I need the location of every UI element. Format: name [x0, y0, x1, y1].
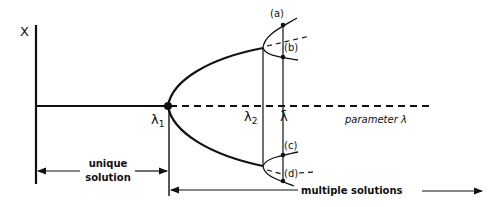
lambda1-label: λ1 — [151, 112, 164, 129]
point-d — [281, 179, 286, 184]
lambda-bar-label: λ̄ — [280, 109, 288, 124]
upper-primary-branch — [168, 48, 263, 106]
label-b: (b) — [284, 42, 298, 53]
label-d: (d) — [284, 168, 298, 179]
point-c — [281, 153, 286, 158]
secondary-unstable-lower-tail — [299, 172, 314, 173]
label-c: (c) — [284, 140, 297, 151]
unique-solution-label-line1: unique — [89, 158, 128, 169]
bifurcation-point-lambda1 — [164, 102, 172, 110]
bifurcation-diagram: X (a) (b) (c) (d) λ1 λ2 λ̄ parameter λ u… — [0, 0, 504, 207]
unique-solution-label-line2: solution — [85, 172, 131, 183]
point-b — [281, 55, 286, 60]
multiple-solutions-label: multiple solutions — [301, 185, 403, 196]
point-a — [281, 23, 286, 28]
y-axis-label: X — [20, 24, 29, 39]
secondary-unstable-lower — [267, 170, 282, 174]
x-axis-label: parameter λ — [344, 114, 407, 125]
secondary-branch-c — [263, 152, 298, 166]
label-a: (a) — [270, 8, 284, 19]
lambda2-label: λ2 — [244, 109, 257, 126]
